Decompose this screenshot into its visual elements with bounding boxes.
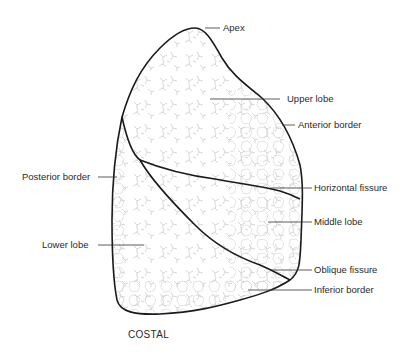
label-horizontal-fissure: Horizontal fissure — [314, 183, 387, 193]
label-upper-lobe: Upper lobe — [287, 94, 333, 104]
label-posterior-border: Posterior border — [22, 172, 90, 182]
label-inferior-border: Inferior border — [314, 285, 374, 295]
label-middle-lobe: Middle lobe — [314, 217, 363, 227]
lung-texture — [100, 20, 320, 320]
label-lower-lobe: Lower lobe — [42, 240, 88, 250]
label-oblique-fissure: Oblique fissure — [314, 265, 377, 275]
view-caption: COSTAL — [128, 329, 169, 340]
label-apex: Apex — [223, 23, 245, 33]
label-anterior-border: Anterior border — [298, 120, 361, 130]
